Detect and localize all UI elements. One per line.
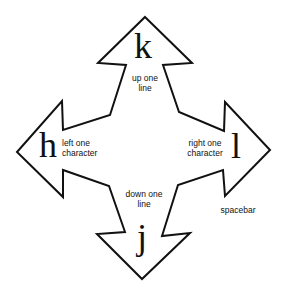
vi-movement-diagram: k up one line h left one character right… [0,0,284,294]
key-j-down: j [137,219,147,255]
spacebar-label: spacebar [218,206,258,216]
key-l-right: l [231,128,241,164]
up-description: up one line [118,74,172,94]
left-description: left one character [62,139,110,159]
key-h-left: h [39,127,57,163]
down-description: down one line [118,190,170,210]
key-k-up: k [134,28,152,64]
right-description: right one character [182,139,228,159]
